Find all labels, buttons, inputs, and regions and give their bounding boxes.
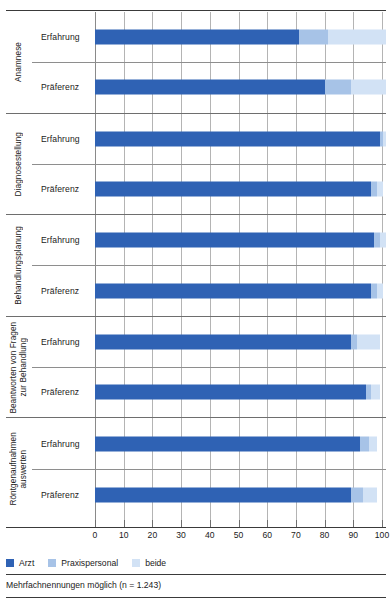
x-tick-label-60: 60 <box>262 530 272 540</box>
x-tick-0 <box>95 520 96 527</box>
stacked-bar[interactable] <box>95 233 386 248</box>
group-label-text: Beantworten von Fragen zur Behandlung <box>9 317 29 418</box>
group-rows: ErfahrungPräferenz <box>32 114 386 215</box>
x-tick-label-30: 30 <box>176 530 186 540</box>
bar-track <box>95 114 386 164</box>
x-tick-50 <box>239 520 240 527</box>
x-tick-label-70: 70 <box>291 530 301 540</box>
chart-row: Präferenz <box>32 265 386 315</box>
group-label-text: Behandlungsplanung <box>14 226 24 305</box>
group-label-text: Röntgenaufnahmen auswerten <box>9 418 29 520</box>
bar-segment-arzt[interactable] <box>95 233 374 248</box>
stacked-bar-chart: AnamneseErfahrungPräferenzDiagnosestellu… <box>0 0 392 609</box>
chart-group: Röntgenaufnahmen auswertenErfahrungPräfe… <box>6 418 386 520</box>
x-tick-100 <box>382 520 383 527</box>
bar-track <box>95 12 386 62</box>
legend-item[interactable]: Arzt <box>6 558 34 568</box>
bar-segment-beide[interactable] <box>369 436 378 451</box>
cut-off-title <box>30 0 380 1</box>
chart-row: Präferenz <box>32 62 386 112</box>
bar-segment-arzt[interactable] <box>95 182 371 197</box>
bar-track <box>95 367 386 417</box>
bar-segment-beide[interactable] <box>363 487 378 502</box>
legend-item[interactable]: Praxispersonal <box>48 558 118 568</box>
stacked-bar[interactable] <box>95 30 386 45</box>
chart-row: Erfahrung <box>32 114 386 164</box>
chart-group: Beantworten von Fragen zur BehandlungErf… <box>6 317 386 419</box>
stacked-bar[interactable] <box>95 283 386 298</box>
row-label: Präferenz <box>32 490 95 500</box>
x-tick-label-100: 100 <box>375 530 389 540</box>
bar-track <box>95 469 386 520</box>
stacked-bar[interactable] <box>95 334 386 349</box>
chart-group: BehandlungsplanungErfahrungPräferenz <box>6 215 386 317</box>
x-tick-20 <box>152 520 153 527</box>
bar-segment-arzt[interactable] <box>95 283 371 298</box>
chart-groups: AnamneseErfahrungPräferenzDiagnosestellu… <box>6 12 386 520</box>
chart-row: Erfahrung <box>32 418 386 469</box>
bar-track <box>95 317 386 367</box>
stacked-bar[interactable] <box>95 182 386 197</box>
chart-group: DiagnosestellungErfahrungPräferenz <box>6 114 386 216</box>
row-label: Erfahrung <box>32 439 95 449</box>
stacked-bar[interactable] <box>95 80 386 95</box>
bar-segment-arzt[interactable] <box>95 131 380 146</box>
bar-segment-arzt[interactable] <box>95 80 325 95</box>
bar-segment-arzt[interactable] <box>95 334 351 349</box>
stacked-bar[interactable] <box>95 385 386 400</box>
group-label-text: Diagnosestellung <box>14 132 24 196</box>
group-rows: ErfahrungPräferenz <box>32 215 386 316</box>
chart-row: Erfahrung <box>32 12 386 62</box>
bar-segment-praxispersonal[interactable] <box>351 487 363 502</box>
bar-segment-beide[interactable] <box>377 283 383 298</box>
bar-segment-beide[interactable] <box>371 385 380 400</box>
x-tick-40 <box>210 520 211 527</box>
bar-segment-arzt[interactable] <box>95 487 351 502</box>
bar-segment-beide[interactable] <box>328 30 386 45</box>
bar-segment-beide[interactable] <box>377 182 383 197</box>
x-tick-10 <box>124 520 125 527</box>
bar-segment-beide[interactable] <box>357 334 380 349</box>
row-label: Erfahrung <box>32 235 95 245</box>
bar-track <box>95 215 386 265</box>
bar-segment-praxispersonal[interactable] <box>299 30 328 45</box>
legend-item[interactable]: beide <box>132 558 166 568</box>
bar-segment-praxispersonal[interactable] <box>360 436 369 451</box>
bar-segment-arzt[interactable] <box>95 436 360 451</box>
row-label: Präferenz <box>32 184 95 194</box>
chart-row: Präferenz <box>32 367 386 417</box>
legend-label: Praxispersonal <box>61 558 118 568</box>
bar-track <box>95 164 386 214</box>
row-label: Erfahrung <box>32 134 95 144</box>
x-tick-label-50: 50 <box>234 530 244 540</box>
chart-row: Erfahrung <box>32 317 386 367</box>
group-label: Röntgenaufnahmen auswerten <box>6 418 32 520</box>
stacked-bar[interactable] <box>95 487 386 502</box>
bar-segment-praxispersonal[interactable] <box>325 80 351 95</box>
stacked-bar[interactable] <box>95 436 386 451</box>
group-rows: ErfahrungPräferenz <box>32 12 386 113</box>
chart-row: Erfahrung <box>32 215 386 265</box>
group-label-text: Anamnese <box>14 42 24 82</box>
row-label: Erfahrung <box>32 32 95 42</box>
footnote-top-rule <box>6 574 386 575</box>
bar-segment-beide[interactable] <box>351 80 386 95</box>
group-label: Behandlungsplanung <box>6 215 32 316</box>
bar-segment-beide[interactable] <box>380 233 386 248</box>
legend-swatch-icon <box>6 559 14 567</box>
row-label: Präferenz <box>32 286 95 296</box>
x-tick-label-20: 20 <box>148 530 158 540</box>
x-tick-label-40: 40 <box>205 530 215 540</box>
bar-segment-arzt[interactable] <box>95 30 299 45</box>
legend-swatch-icon <box>48 559 56 567</box>
chart-group: AnamneseErfahrungPräferenz <box>6 12 386 114</box>
row-label: Erfahrung <box>32 337 95 347</box>
x-tick-label-80: 80 <box>320 530 330 540</box>
legend-label: beide <box>145 558 166 568</box>
footnote-bottom-rule <box>6 597 386 598</box>
stacked-bar[interactable] <box>95 131 386 146</box>
bar-segment-arzt[interactable] <box>95 385 366 400</box>
bar-segment-beide[interactable] <box>383 131 386 146</box>
x-tick-label-10: 10 <box>119 530 129 540</box>
x-tick-label-90: 90 <box>349 530 359 540</box>
